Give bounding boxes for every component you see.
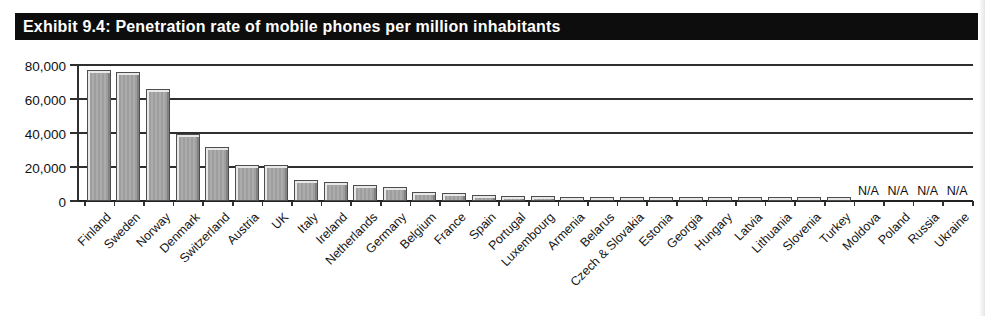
- bar-belarus: [590, 197, 614, 201]
- bar-czech-slovakia: [620, 197, 644, 201]
- category-boundary-tick: [291, 201, 293, 206]
- category-boundary-tick: [410, 201, 412, 206]
- bar-germany: [383, 187, 407, 201]
- bar-denmark: [176, 134, 200, 201]
- category-boundary-tick: [114, 201, 116, 206]
- bar-belgium: [412, 192, 436, 201]
- bar-luxembourg: [531, 196, 555, 201]
- category-boundary-tick: [558, 201, 560, 206]
- bar-sweden: [116, 72, 140, 201]
- bar-estonia: [649, 197, 673, 201]
- bar-georgia: [679, 197, 703, 201]
- y-axis-tick-label: 0: [4, 196, 66, 210]
- bar-norway: [146, 89, 170, 201]
- bar-spain: [472, 195, 496, 201]
- gridline: [78, 98, 973, 100]
- gridline: [78, 132, 973, 134]
- category-boundary-tick: [942, 201, 944, 206]
- category-boundary-tick: [706, 201, 708, 206]
- category-boundary-tick: [913, 201, 915, 206]
- bar-armenia: [560, 197, 584, 201]
- bar-hungary: [708, 197, 732, 201]
- y-axis-tick-label: 60,000: [4, 94, 66, 108]
- bar-slovenia: [797, 197, 821, 201]
- bar-uk: [264, 165, 288, 201]
- y-axis-tick-label: 80,000: [4, 60, 66, 74]
- category-boundary-tick: [202, 201, 204, 206]
- bar-latvia: [738, 197, 762, 201]
- category-boundary-tick: [321, 201, 323, 206]
- category-boundary-tick: [232, 201, 234, 206]
- category-boundary-tick: [824, 201, 826, 206]
- category-boundary-tick: [262, 201, 264, 206]
- category-boundary-tick: [883, 201, 885, 206]
- category-boundary-tick: [380, 201, 382, 206]
- gridline: [78, 64, 973, 66]
- x-axis-label: UK: [269, 210, 291, 232]
- category-boundary-tick: [84, 201, 86, 206]
- category-boundary-tick: [528, 201, 530, 206]
- bar-lithuania: [768, 197, 792, 201]
- category-boundary-tick: [439, 201, 441, 206]
- y-axis-tick-label: 20,000: [4, 162, 66, 176]
- category-boundary-tick: [794, 201, 796, 206]
- plot-area: 80,00060,00040,00020,0000FinlandSwedenNo…: [0, 0, 985, 316]
- category-boundary-tick: [972, 201, 974, 206]
- bar-austria: [235, 165, 259, 201]
- bar-italy: [294, 180, 318, 201]
- x-axis-label: Poland: [875, 210, 912, 247]
- x-axis-label: France: [431, 210, 468, 247]
- scan-edge-artifact: [979, 0, 985, 316]
- exhibit-figure: Exhibit 9.4: Penetration rate of mobile …: [0, 0, 985, 316]
- bar-france: [442, 193, 466, 201]
- bar-netherlands: [353, 185, 377, 201]
- category-boundary-tick: [143, 201, 145, 206]
- category-boundary-tick: [676, 201, 678, 206]
- category-boundary-tick: [617, 201, 619, 206]
- category-boundary-tick: [765, 201, 767, 206]
- y-axis-tick-label: 40,000: [4, 128, 66, 142]
- category-boundary-tick: [469, 201, 471, 206]
- bar-turkey: [827, 197, 851, 201]
- category-boundary-tick: [854, 201, 856, 206]
- x-axis-label: Austria: [224, 210, 261, 247]
- category-boundary-tick: [735, 201, 737, 206]
- y-axis-line: [77, 65, 79, 201]
- category-boundary-tick: [173, 201, 175, 206]
- category-boundary-tick: [350, 201, 352, 206]
- na-value-label: N/A: [940, 184, 974, 199]
- category-boundary-tick: [646, 201, 648, 206]
- bar-ireland: [324, 182, 348, 201]
- bar-portugal: [501, 196, 525, 201]
- category-boundary-tick: [498, 201, 500, 206]
- category-boundary-tick: [587, 201, 589, 206]
- bar-finland: [87, 70, 111, 201]
- bar-switzerland: [205, 147, 229, 201]
